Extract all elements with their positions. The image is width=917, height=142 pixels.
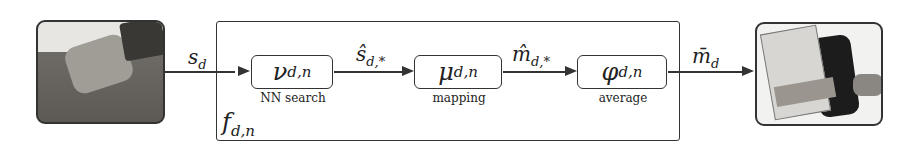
outer-sub: d,n — [231, 122, 255, 140]
outer-function-label: fd,n — [222, 108, 255, 140]
block-symbol: μ — [438, 58, 454, 86]
signal-sub: d,* — [531, 54, 550, 69]
hand-shape — [119, 20, 165, 61]
label-average: average — [577, 91, 669, 105]
arrowhead-mhat — [565, 66, 577, 76]
signal-sub: d,* — [366, 54, 385, 69]
arrowhead-shat — [402, 66, 414, 76]
signal-base: ŝ — [356, 42, 366, 66]
block-sub: d,n — [618, 63, 642, 81]
signal-sub: d — [711, 56, 719, 71]
block-average: φd,n — [577, 55, 667, 89]
block-sub: d,n — [454, 63, 478, 81]
signal-s-d: sd — [188, 45, 207, 72]
label-nn-search: NN search — [251, 91, 335, 105]
output-gripper-image — [755, 22, 883, 126]
signal-base: m̄ — [692, 44, 711, 68]
label-mapping: mapping — [414, 91, 504, 105]
signal-base: s — [188, 45, 198, 69]
signal-m-hat: m̂d,* — [512, 42, 550, 69]
arrow-line-mbar — [668, 71, 744, 73]
block-mapping: μd,n — [414, 55, 502, 89]
block-nn-search: νd,n — [251, 55, 333, 89]
block-symbol: φ — [602, 58, 619, 86]
arm-part — [853, 74, 883, 96]
outer-base: f — [222, 108, 231, 136]
signal-sub: d — [198, 57, 206, 72]
input-hand-image — [36, 20, 165, 124]
block-sub: d,n — [287, 63, 311, 81]
signal-s-hat: ŝd,* — [356, 42, 385, 69]
signal-base: m̂ — [512, 42, 531, 66]
block-symbol: ν — [273, 58, 288, 86]
signal-m-bar: m̄d — [692, 44, 719, 71]
arrow-line-shat — [334, 71, 404, 73]
arrowhead-mbar — [742, 66, 754, 76]
arrow-line-mhat — [503, 71, 567, 73]
